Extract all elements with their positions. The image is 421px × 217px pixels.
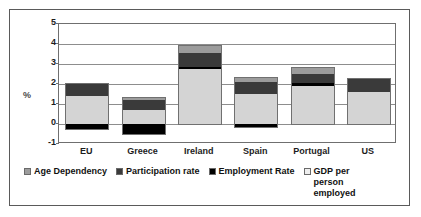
- legend-item[interactable]: Participation rate: [116, 166, 200, 177]
- y-axis-tick-mark: [56, 43, 59, 44]
- bar-group[interactable]: [178, 24, 222, 142]
- zero-line: [59, 124, 395, 125]
- y-axis-tick-mark: [56, 123, 59, 124]
- y-axis-tick-label: 3: [34, 58, 56, 67]
- y-axis-tick-label: 5: [34, 18, 56, 27]
- x-axis-label-us: US: [333, 146, 403, 157]
- bar-segment[interactable]: [65, 84, 109, 96]
- y-axis-tick-label: 0: [34, 118, 56, 127]
- bar-segment[interactable]: [347, 79, 391, 92]
- y-axis-tick-mark: [56, 143, 59, 144]
- gridline: [59, 104, 395, 105]
- legend-item[interactable]: Employment Rate: [209, 166, 295, 177]
- bar-segment[interactable]: [122, 98, 166, 100]
- bar-group[interactable]: [347, 24, 391, 142]
- bar-segment[interactable]: [178, 69, 222, 124]
- chart-legend: Age DependencyParticipation rateEmployme…: [24, 166, 397, 198]
- bar-segment[interactable]: [291, 68, 335, 74]
- bar-group[interactable]: [65, 24, 109, 142]
- y-axis-tick-mark: [56, 23, 59, 24]
- y-axis-tick-mark: [56, 63, 59, 64]
- bar-segment[interactable]: [178, 46, 222, 53]
- bar-segment[interactable]: [122, 100, 166, 110]
- y-axis-tick-label: 2: [34, 78, 56, 87]
- bar-segment[interactable]: [291, 86, 335, 124]
- bar-segment[interactable]: [178, 67, 222, 69]
- bar-segment[interactable]: [122, 124, 166, 134]
- bar-group[interactable]: [122, 24, 166, 142]
- bar-segment[interactable]: [234, 94, 278, 124]
- y-axis: 543210-1: [30, 23, 56, 143]
- bar-segment[interactable]: [291, 74, 335, 83]
- legend-swatch-icon: [24, 168, 31, 175]
- legend-swatch-icon: [116, 168, 123, 175]
- bar-segment[interactable]: [178, 53, 222, 67]
- bar-segment[interactable]: [347, 92, 391, 124]
- y-axis-tick-label: 1: [34, 98, 56, 107]
- y-axis-tick-label: 4: [34, 38, 56, 47]
- legend-item[interactable]: GDP per person employed: [304, 166, 382, 199]
- bar-segment[interactable]: [291, 83, 335, 86]
- y-axis-tick-mark: [56, 83, 59, 84]
- legend-label: Participation rate: [126, 166, 200, 177]
- y-axis-tick-mark: [56, 103, 59, 104]
- chart-frame: % 543210-1 EUGreeceIrelandSpainPortugalU…: [9, 9, 410, 206]
- x-axis-labels: EUGreeceIrelandSpainPortugalUS: [58, 146, 396, 160]
- bar-group[interactable]: [234, 24, 278, 142]
- bar-group[interactable]: [291, 24, 335, 142]
- legend-label: Employment Rate: [219, 166, 295, 177]
- legend-label: GDP per person employed: [314, 166, 382, 199]
- gridline: [59, 44, 395, 45]
- bar-segment[interactable]: [234, 78, 278, 82]
- bar-segment[interactable]: [234, 82, 278, 94]
- legend-swatch-icon: [209, 168, 216, 175]
- bar-segment[interactable]: [234, 124, 278, 127]
- bar-segment[interactable]: [65, 96, 109, 124]
- legend-swatch-icon: [304, 168, 311, 175]
- bar-segment[interactable]: [65, 124, 109, 129]
- legend-label: Age Dependency: [34, 166, 107, 177]
- bar-segment[interactable]: [122, 110, 166, 124]
- gridline: [59, 64, 395, 65]
- gridline: [59, 84, 395, 85]
- legend-item[interactable]: Age Dependency: [24, 166, 107, 177]
- plot-area: [58, 23, 396, 143]
